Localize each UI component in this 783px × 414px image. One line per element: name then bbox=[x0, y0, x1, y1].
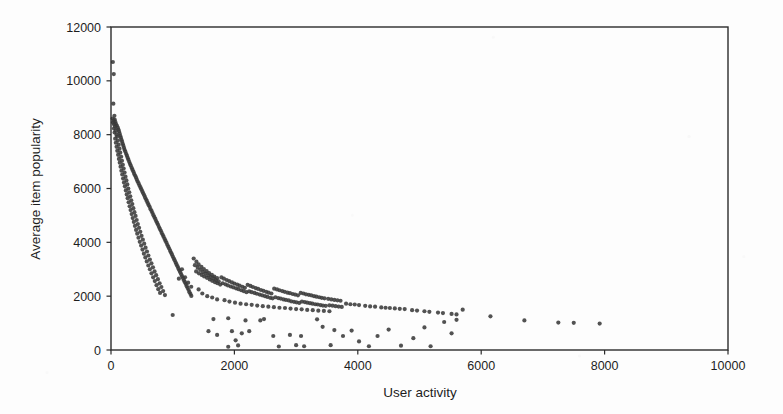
scatter-point bbox=[243, 318, 247, 322]
scatter-point bbox=[135, 232, 139, 236]
scatter-point bbox=[262, 317, 266, 321]
scatter-point bbox=[388, 306, 392, 310]
scatter-point bbox=[210, 295, 214, 299]
scatter-point bbox=[189, 294, 193, 298]
y-axis-tick-label: 8000 bbox=[73, 128, 101, 142]
scatter-point bbox=[136, 236, 140, 240]
scatter-point bbox=[238, 302, 242, 306]
y-axis-tick-label: 12000 bbox=[66, 21, 101, 35]
scatter-point bbox=[315, 317, 319, 321]
scatter-point bbox=[133, 224, 137, 228]
scatter-point bbox=[332, 328, 336, 332]
scatter-point bbox=[383, 306, 387, 310]
scatter-point bbox=[227, 299, 231, 303]
y-axis-tick-label: 4000 bbox=[73, 236, 101, 250]
scatter-point bbox=[186, 281, 190, 285]
scatter-point bbox=[454, 318, 458, 322]
scatter-point bbox=[183, 275, 187, 279]
scatter-point bbox=[363, 304, 367, 308]
scatter-point bbox=[329, 343, 333, 347]
scatter-point bbox=[277, 306, 281, 310]
scatter-point bbox=[357, 303, 361, 307]
scatter-point bbox=[142, 252, 146, 256]
scatter-point bbox=[158, 291, 162, 295]
scatter-point bbox=[442, 320, 446, 324]
y-axis-tick-label: 10000 bbox=[66, 74, 101, 88]
scatter-point bbox=[375, 334, 379, 338]
scatter-point bbox=[379, 305, 383, 309]
scatter-point bbox=[261, 304, 265, 308]
scatter-point bbox=[398, 307, 402, 311]
scatter-point bbox=[338, 299, 342, 303]
scatter-point bbox=[410, 308, 414, 312]
scatter-point bbox=[230, 329, 234, 333]
scatter-point bbox=[197, 287, 201, 291]
scatter-point bbox=[311, 308, 315, 312]
scatter-point bbox=[322, 296, 326, 300]
scatter-point bbox=[130, 212, 134, 216]
scatter-point bbox=[357, 339, 361, 343]
scatter-point bbox=[138, 240, 142, 244]
scatter-plot-figure: 0200040006000800010000020004000600080001… bbox=[0, 0, 783, 414]
scatter-point bbox=[139, 243, 143, 247]
scatter-point bbox=[132, 220, 136, 224]
scatter-point bbox=[206, 329, 210, 333]
scatter-point bbox=[340, 305, 344, 309]
scatter-point bbox=[316, 309, 320, 313]
scatter-point bbox=[353, 302, 357, 306]
scatter-point bbox=[189, 285, 193, 289]
plot-canvas: 0200040006000800010000020004000600080001… bbox=[0, 0, 783, 414]
scatter-point bbox=[461, 308, 465, 312]
scatter-point bbox=[283, 306, 287, 310]
scatter-point bbox=[226, 316, 230, 320]
scatter-point bbox=[393, 306, 397, 310]
scatter-point bbox=[294, 343, 298, 347]
scatter-point bbox=[299, 334, 303, 338]
y-axis-title: Average item popularity bbox=[28, 118, 43, 260]
scatter-point bbox=[422, 325, 426, 329]
scatter-point bbox=[368, 304, 372, 308]
scatter-point bbox=[244, 302, 248, 306]
scatter-point bbox=[148, 267, 152, 271]
scatter-point bbox=[200, 291, 204, 295]
scatter-point bbox=[171, 313, 175, 317]
scatter-point bbox=[367, 344, 371, 348]
scatter-point bbox=[226, 345, 230, 349]
scatter-point bbox=[350, 329, 354, 333]
axis-tick-labels-layer: 0200040006000800010000020004000600080001… bbox=[66, 21, 745, 374]
scatter-point bbox=[427, 310, 431, 314]
scatter-point bbox=[411, 336, 415, 340]
scatter-point bbox=[422, 309, 426, 313]
scatter-point bbox=[436, 310, 440, 314]
plot-frame-box bbox=[111, 27, 728, 350]
scatter-point bbox=[300, 307, 304, 311]
scatter-point bbox=[373, 305, 377, 309]
x-axis-tick-label: 8000 bbox=[591, 359, 619, 373]
scatter-point bbox=[322, 309, 326, 313]
scatter-point bbox=[236, 343, 240, 347]
scatter-point bbox=[324, 304, 328, 308]
scatter-point bbox=[288, 306, 292, 310]
scatter-point bbox=[403, 307, 407, 311]
scatter-point bbox=[153, 279, 157, 283]
scatter-point bbox=[305, 308, 309, 312]
scatter-point bbox=[180, 267, 184, 271]
scatter-point bbox=[344, 302, 348, 306]
scatter-point bbox=[233, 301, 237, 305]
y-axis-tick-label: 6000 bbox=[73, 182, 101, 196]
x-axis-tick-label: 2000 bbox=[220, 359, 248, 373]
scatter-point bbox=[258, 318, 262, 322]
scatter-point bbox=[151, 275, 155, 279]
scatter-point bbox=[488, 314, 492, 318]
scatter-point bbox=[302, 344, 306, 348]
scatter-point bbox=[156, 287, 160, 291]
scatter-point bbox=[205, 294, 209, 298]
scatter-point bbox=[277, 344, 281, 348]
scatter-point bbox=[449, 312, 453, 316]
scatter-point bbox=[163, 293, 167, 297]
scatter-point bbox=[111, 102, 115, 106]
axis-ticks-layer bbox=[107, 27, 729, 355]
scatter-point bbox=[128, 204, 132, 208]
scatter-point bbox=[522, 318, 526, 322]
scatter-point bbox=[145, 259, 149, 263]
